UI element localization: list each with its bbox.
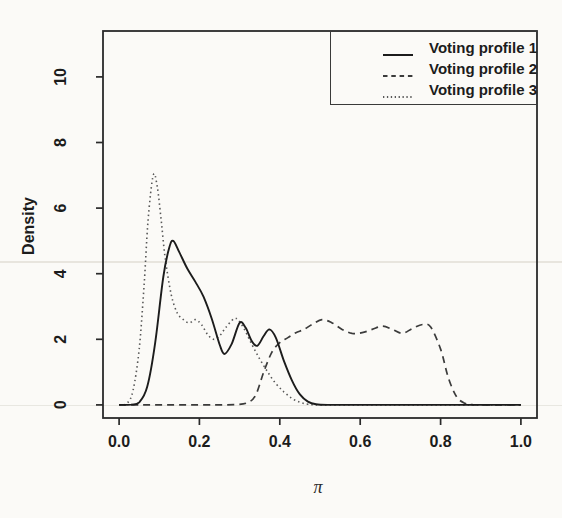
- y-tick-label: 8: [52, 138, 69, 147]
- x-tick-label: 0.4: [269, 433, 291, 450]
- y-tick-label: 4: [52, 269, 69, 278]
- x-tick-label: 0.2: [188, 433, 210, 450]
- legend-label: Voting profile 2: [429, 60, 537, 77]
- dashed-line-swatch-icon: [383, 65, 413, 71]
- y-tick-label: 2: [52, 335, 69, 344]
- x-tick-label: 0.6: [349, 433, 371, 450]
- y-tick-label: 10: [52, 68, 69, 86]
- x-tick-label: 0.0: [108, 433, 130, 450]
- density-plot-figure: 0.00.20.40.60.81.00246810 Density π Voti…: [0, 0, 562, 518]
- legend-item-voting-profile-2: Voting profile 2: [331, 58, 536, 78]
- dotted-line-swatch-icon: [383, 86, 413, 92]
- curve-voting-profile-2: [119, 320, 521, 405]
- x-tick-label: 1.0: [510, 433, 532, 450]
- y-tick-label: 0: [52, 400, 69, 409]
- legend-label: Voting profile 1: [429, 39, 537, 56]
- curve-voting-profile-1: [119, 241, 521, 405]
- legend-label: Voting profile 3: [429, 81, 537, 98]
- curve-voting-profile-3: [119, 174, 521, 405]
- legend-item-voting-profile-3: Voting profile 3: [331, 79, 536, 99]
- y-tick-label: 6: [52, 204, 69, 213]
- legend-box: Voting profile 1 Voting profile 2 Voting…: [330, 31, 537, 105]
- x-tick-label: 0.8: [429, 433, 451, 450]
- x-axis-title: π: [268, 477, 368, 498]
- solid-line-swatch-icon: [383, 44, 413, 50]
- y-axis-title: Density: [20, 184, 40, 268]
- legend-item-voting-profile-1: Voting profile 1: [331, 37, 536, 57]
